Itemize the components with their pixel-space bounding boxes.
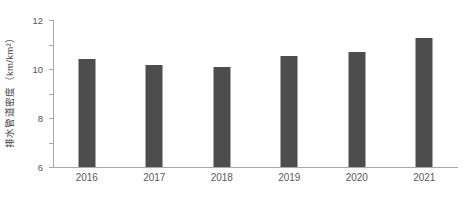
x-tick-label-2018: 2018 bbox=[211, 172, 233, 183]
bar-slot bbox=[188, 20, 256, 167]
x-tick-label-2017: 2017 bbox=[143, 172, 165, 183]
bar-slot bbox=[323, 20, 391, 167]
bar-2016[interactable] bbox=[78, 59, 95, 167]
x-tick-label-2021: 2021 bbox=[413, 172, 435, 183]
y-tick-label: 8 bbox=[38, 113, 43, 124]
bar-slot bbox=[53, 20, 121, 167]
bar-2020[interactable] bbox=[348, 52, 365, 167]
x-axis-line bbox=[53, 167, 458, 168]
y-tick-mark: 0 bbox=[49, 167, 53, 168]
bar-slot bbox=[121, 20, 189, 167]
bar-2019[interactable] bbox=[281, 56, 298, 167]
bar-slot bbox=[256, 20, 324, 167]
y-tick-label: 6 bbox=[38, 162, 43, 173]
bar-2017[interactable] bbox=[146, 65, 163, 167]
bar-2021[interactable] bbox=[416, 38, 433, 167]
x-tick-label-2020: 2020 bbox=[346, 172, 368, 183]
plot-area: 024681012 201620172018201920202021 bbox=[53, 20, 458, 167]
bar-slot bbox=[391, 20, 459, 167]
y-tick-label: 10 bbox=[32, 64, 43, 75]
y-axis-title: 排水管道密度（km/km²） bbox=[0, 0, 18, 189]
bar-chart: 排水管道密度（km/km²） 024681012 201620172018201… bbox=[0, 0, 472, 197]
x-tick-label-2019: 2019 bbox=[278, 172, 300, 183]
bar-2018[interactable] bbox=[213, 67, 230, 167]
y-tick-label: 12 bbox=[32, 15, 43, 26]
bars-layer bbox=[53, 20, 458, 167]
x-tick-label-2016: 2016 bbox=[76, 172, 98, 183]
